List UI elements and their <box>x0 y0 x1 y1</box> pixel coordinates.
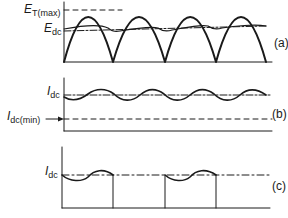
panel-b-tag: (b) <box>272 107 287 121</box>
idc-subscript-b: dc <box>50 90 60 100</box>
idc-min-subscript: dc(min) <box>10 115 40 125</box>
panel-a-plot <box>64 2 272 62</box>
panel-a-tag: (a) <box>274 36 288 50</box>
idc-label-c: Idc <box>45 165 58 181</box>
edc-symbol: E <box>44 21 52 35</box>
emax-subscript: T(max) <box>32 8 61 18</box>
rectifier-waveform-diagram: ET(max) Edc (a) Idc Idc(min) (b) Idc (c) <box>0 0 288 218</box>
edc-label: Edc <box>44 22 62 38</box>
current-pulse-1 <box>62 171 113 181</box>
current-pulse-2 <box>165 171 216 181</box>
idc-min-arrow-head <box>58 117 64 122</box>
panel-b-plot <box>64 78 272 131</box>
edc-subscript: dc <box>52 27 62 37</box>
panel-c-plot <box>62 147 270 208</box>
panel-c-tag: (c) <box>272 179 286 193</box>
idc-label-b: Idc <box>47 85 60 101</box>
rectified-voltage-wave <box>64 17 266 62</box>
emax-symbol: E <box>24 2 32 16</box>
emax-label: ET(max) <box>24 3 61 19</box>
idc-min-label: Idc(min) <box>7 110 40 126</box>
idc-subscript-c: dc <box>48 170 58 180</box>
